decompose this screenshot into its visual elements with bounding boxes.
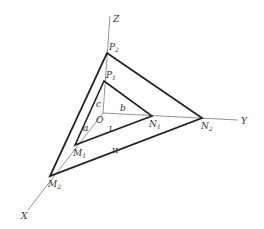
y-axis-label: Y xyxy=(241,116,248,126)
intercept-c-label: c xyxy=(96,99,101,109)
x-axis-label: X xyxy=(20,211,28,221)
y-axis xyxy=(103,113,238,120)
outer-triangle-label: II xyxy=(112,146,118,155)
inner-triangle xyxy=(75,81,152,145)
point-n2-label: N2 xyxy=(200,121,213,132)
intercept-b-label: b xyxy=(120,103,126,113)
point-p2-label: P2 xyxy=(108,42,119,53)
intercept-a-label: a xyxy=(83,123,88,133)
point-p1-label: P1 xyxy=(105,70,116,81)
z-axis xyxy=(103,16,110,113)
point-n1-label: N1 xyxy=(148,119,161,130)
x-axis xyxy=(28,113,103,210)
point-m1-label: M1 xyxy=(72,148,86,159)
origin-label: O xyxy=(96,115,104,125)
inner-triangle-label: I xyxy=(109,124,112,133)
point-m2-label: M2 xyxy=(47,179,61,190)
z-axis-label: Z xyxy=(112,14,120,24)
diagram-canvas: Z Y X O P2 P1 N1 N2 M1 M2 a b c I II xyxy=(0,0,264,229)
